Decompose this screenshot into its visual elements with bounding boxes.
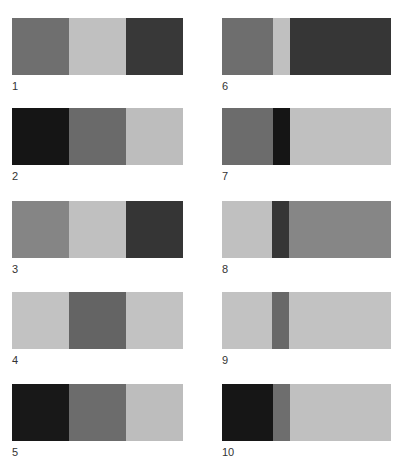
panel-label: 7: [222, 170, 228, 182]
swatch-segment: [273, 384, 290, 441]
swatch-segment: [273, 18, 290, 75]
swatch-segment: [290, 108, 391, 165]
panel-label: 5: [12, 446, 18, 458]
swatch-segment: [290, 18, 391, 75]
swatch-segment: [126, 292, 183, 349]
swatch-segment: [69, 108, 126, 165]
swatch-panel-1: [12, 18, 183, 75]
swatch-segment: [289, 292, 391, 349]
swatch-segment: [69, 201, 126, 258]
swatch-panel-3: [12, 201, 183, 258]
swatch-panel-2: [12, 108, 183, 165]
panel-label: 8: [222, 263, 228, 275]
swatch-segment: [69, 384, 126, 441]
swatch-segment: [12, 18, 69, 75]
panel-label: 3: [12, 263, 18, 275]
swatch-segment: [126, 108, 183, 165]
panel-label: 4: [12, 354, 18, 366]
swatch-segment: [69, 18, 126, 75]
panel-label: 10: [222, 446, 234, 458]
swatch-segment: [12, 384, 69, 441]
panel-label: 2: [12, 170, 18, 182]
swatch-segment: [290, 384, 391, 441]
swatch-panel-9: [222, 292, 391, 349]
panel-label: 6: [222, 80, 228, 92]
swatch-segment: [273, 108, 290, 165]
panel-label: 9: [222, 354, 228, 366]
swatch-segment: [272, 292, 289, 349]
swatch-segment: [222, 384, 273, 441]
swatch-segment: [12, 108, 69, 165]
swatch-panel-7: [222, 108, 391, 165]
swatch-segment: [289, 201, 391, 258]
swatch-panel-5: [12, 384, 183, 441]
swatch-segment: [126, 18, 183, 75]
swatch-segment: [12, 201, 69, 258]
swatch-segment: [69, 292, 126, 349]
swatch-panel-6: [222, 18, 391, 75]
swatch-segment: [12, 292, 69, 349]
swatch-panel-8: [222, 201, 391, 258]
swatch-panel-10: [222, 384, 391, 441]
swatch-segment: [126, 384, 183, 441]
swatch-segment: [222, 201, 272, 258]
swatch-segment: [272, 201, 289, 258]
panel-label: 1: [12, 80, 18, 92]
swatch-segment: [126, 201, 183, 258]
swatch-segment: [222, 108, 273, 165]
swatch-panel-4: [12, 292, 183, 349]
swatch-segment: [222, 18, 273, 75]
swatch-segment: [222, 292, 272, 349]
